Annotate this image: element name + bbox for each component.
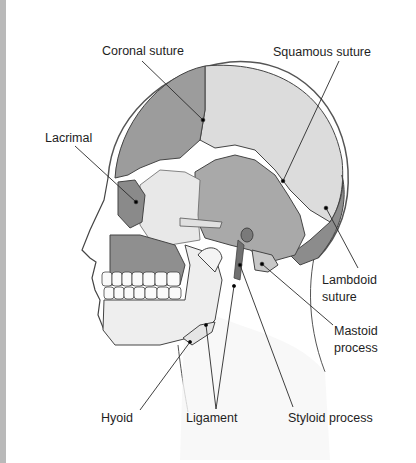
skull-illustration	[0, 0, 416, 463]
label-lambdoid-line1: Lambdoid	[322, 272, 377, 289]
label-coronal-suture: Coronal suture	[102, 43, 184, 60]
label-mastoid-line1: Mastoid	[334, 323, 378, 340]
label-squamous-suture: Squamous suture	[273, 44, 371, 61]
label-hyoid: Hyoid	[101, 410, 133, 427]
label-lambdoid-line2: suture	[322, 289, 357, 306]
label-styloid-process: Styloid process	[288, 410, 373, 427]
label-ligament: Ligament	[186, 410, 237, 427]
label-lacrimal: Lacrimal	[45, 130, 92, 147]
zygomatic-bone	[140, 170, 200, 245]
teeth	[102, 272, 181, 299]
label-mastoid-line2: process	[334, 340, 378, 357]
frontal-bone	[115, 66, 205, 178]
ear-canal	[241, 228, 253, 242]
